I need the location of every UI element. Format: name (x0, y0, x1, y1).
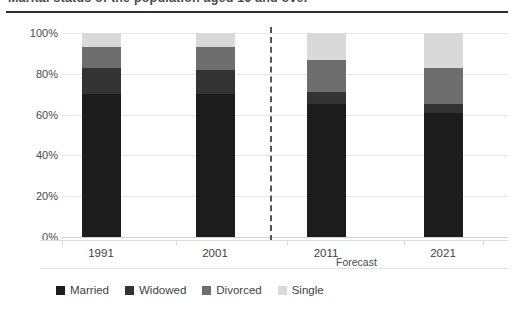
bar-segment-single[interactable] (196, 33, 235, 47)
x-axis-line (40, 240, 508, 241)
chart-container: Marital status of the population aged 16… (0, 0, 514, 312)
legend-swatch-icon (56, 286, 65, 295)
x-axis-tick (287, 240, 288, 245)
bar-segment-divorced[interactable] (424, 68, 463, 105)
bar-segment-widowed[interactable] (82, 68, 121, 95)
legend-divider-rule (40, 268, 508, 269)
bar-segment-single[interactable] (424, 33, 463, 68)
legend-swatch-icon (125, 286, 134, 295)
y-axis-tick-label: 100% (30, 27, 58, 40)
bar-segment-widowed[interactable] (196, 70, 235, 94)
chart-legend: MarriedWidowedDivorcedSingle (56, 284, 324, 296)
title-divider-rule (6, 11, 508, 13)
bar-1991[interactable] (82, 33, 121, 237)
x-axis-tick (62, 240, 63, 245)
x-axis-label-2021: 2021 (413, 247, 473, 259)
legend-label: Single (292, 284, 324, 296)
x-axis-tick (404, 240, 405, 245)
legend-swatch-icon (278, 286, 287, 295)
bar-segment-widowed[interactable] (307, 92, 346, 104)
x-axis-tick (483, 240, 484, 245)
y-axis-tick-label: 40% (36, 149, 58, 162)
x-axis-label-2001: 2001 (185, 247, 245, 259)
legend-label: Divorced (216, 284, 261, 296)
bar-segment-divorced[interactable] (307, 60, 346, 93)
y-axis-tick-label: 20% (36, 190, 58, 203)
y-axis-labels: 100%80%60%40%20%0% (6, 26, 58, 244)
bar-2011[interactable] (307, 33, 346, 237)
bar-2021[interactable] (424, 33, 463, 237)
bar-2001[interactable] (196, 33, 235, 237)
x-axis-label-2011: 2011 (296, 247, 356, 259)
plot-area (62, 33, 508, 237)
legend-label: Widowed (139, 284, 186, 296)
legend-item-widowed[interactable]: Widowed (125, 284, 186, 296)
bar-segment-widowed[interactable] (424, 104, 463, 112)
legend-item-married[interactable]: Married (56, 284, 109, 296)
y-axis-tick-label: 60% (36, 109, 58, 122)
forecast-divider-line (270, 27, 272, 241)
bar-segment-married[interactable] (307, 104, 346, 237)
legend-item-single[interactable]: Single (278, 284, 324, 296)
bar-segment-single[interactable] (307, 33, 346, 60)
legend-item-divorced[interactable]: Divorced (202, 284, 261, 296)
legend-label: Married (70, 284, 109, 296)
x-axis-tick (176, 240, 177, 245)
bar-segment-married[interactable] (196, 94, 235, 237)
bar-segment-married[interactable] (424, 113, 463, 237)
bar-segment-married[interactable] (82, 94, 121, 237)
legend-swatch-icon (202, 286, 211, 295)
x-axis-label-1991: 1991 (71, 247, 131, 259)
chart-title: Marital status of the population aged 16… (8, 0, 428, 5)
gridline-0 (62, 237, 508, 238)
bar-segment-divorced[interactable] (196, 47, 235, 69)
y-axis-tick-label: 0% (42, 231, 58, 244)
bar-segment-single[interactable] (82, 33, 121, 47)
y-axis-tick-label: 80% (36, 68, 58, 81)
bar-segment-divorced[interactable] (82, 47, 121, 67)
